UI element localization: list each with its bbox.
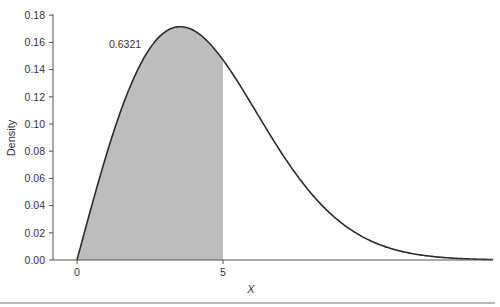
area-annotation: 0.6321 <box>109 38 141 50</box>
y-tick-label: 0.08 <box>25 145 46 157</box>
y-tick-label: 0.10 <box>25 118 46 130</box>
density-chart: 0.000.020.040.060.080.100.120.140.160.18… <box>0 0 500 307</box>
y-tick-label: 0.16 <box>25 36 46 48</box>
x-tick-label: 0 <box>74 266 80 278</box>
x-axis-ticks: 05 <box>74 260 226 278</box>
shaded-area-probability <box>77 27 223 260</box>
y-tick-label: 0.18 <box>25 9 46 21</box>
x-tick-label: 5 <box>220 266 226 278</box>
x-axis-title: X <box>246 283 255 295</box>
y-tick-label: 0.02 <box>25 227 46 239</box>
y-tick-label: 0.12 <box>25 91 46 103</box>
y-tick-label: 0.14 <box>25 63 46 75</box>
y-tick-label: 0.06 <box>25 172 46 184</box>
y-axis-ticks: 0.000.020.040.060.080.100.120.140.160.18 <box>25 9 53 266</box>
y-tick-label: 0.04 <box>25 199 46 211</box>
y-tick-label: 0.00 <box>25 254 46 266</box>
shaded-region <box>77 27 223 260</box>
y-axis-title: Density <box>5 119 17 156</box>
